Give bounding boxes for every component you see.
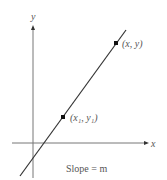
slope-caption: Slope = m xyxy=(66,163,107,174)
point-x1-y1-label: (x₁, y₁) xyxy=(70,112,98,124)
x-axis-label: x xyxy=(150,138,156,149)
point-x-y-label: (x, y) xyxy=(122,38,143,50)
y-axis-label: y xyxy=(30,11,36,22)
diagram-labels: y x (x₁, y₁) (x, y) Slope = m xyxy=(0,0,167,180)
